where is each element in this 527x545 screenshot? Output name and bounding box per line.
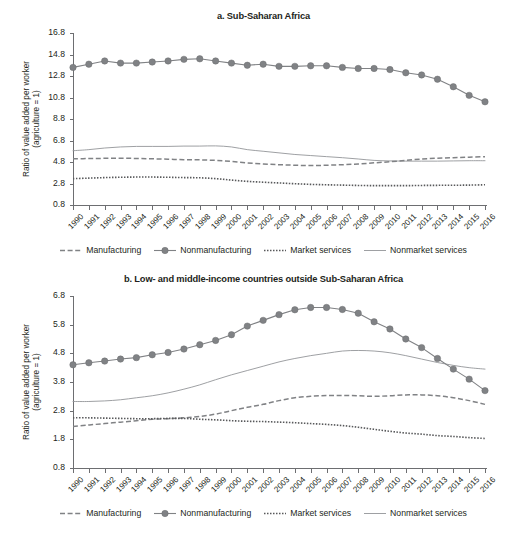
thin-solid-line-icon xyxy=(364,509,386,518)
data-point-marker xyxy=(339,306,345,312)
data-point-marker xyxy=(434,355,440,361)
data-point-marker xyxy=(276,311,282,317)
chart-panel-a: a. Sub-Saharan Africa Ratio of value add… xyxy=(0,0,527,268)
data-point-marker xyxy=(371,319,377,325)
legend-item-nonmarket-services[interactable]: Nonmarket services xyxy=(364,245,467,255)
y-axis-tick-label: 4.8 xyxy=(33,347,65,357)
data-point-marker xyxy=(244,323,250,329)
data-point-marker xyxy=(70,64,76,70)
data-point-marker xyxy=(276,63,282,69)
legend-label: Nonmanufacturing xyxy=(180,245,251,255)
data-point-marker xyxy=(323,304,329,310)
data-point-marker xyxy=(482,387,488,393)
dashed-line-icon xyxy=(60,509,82,518)
data-point-marker xyxy=(197,342,203,348)
legend-label: Manufacturing xyxy=(86,245,141,255)
legend-item-manufacturing[interactable]: Manufacturing xyxy=(60,245,141,255)
legend-item-nonmanufacturing[interactable]: Nonmanufacturing xyxy=(154,508,251,518)
y-axis-tick-label: 5.8 xyxy=(33,319,65,329)
legend-item-nonmarket-services[interactable]: Nonmarket services xyxy=(364,508,467,518)
data-point-marker xyxy=(181,346,187,352)
dashed-line-icon xyxy=(60,246,82,255)
panel-a-title: a. Sub-Saharan Africa xyxy=(0,11,527,21)
panel-b-legend: ManufacturingNonmanufacturingMarket serv… xyxy=(0,508,527,518)
legend-item-manufacturing[interactable]: Manufacturing xyxy=(60,508,141,518)
legend-marker-circle xyxy=(162,510,168,516)
legend-item-market-services[interactable]: Market services xyxy=(264,508,351,518)
series-layer xyxy=(73,33,489,209)
data-point-marker xyxy=(117,60,123,66)
data-point-marker xyxy=(403,336,409,342)
data-point-marker xyxy=(355,65,361,71)
data-point-marker xyxy=(307,63,313,69)
legend-label: Manufacturing xyxy=(86,508,141,518)
y-axis-tick-label: 14.8 xyxy=(33,49,65,59)
data-point-marker xyxy=(228,60,234,66)
data-point-marker xyxy=(181,56,187,62)
data-point-marker xyxy=(86,360,92,366)
data-point-marker xyxy=(434,76,440,82)
data-point-marker xyxy=(70,362,76,368)
legend-label: Market services xyxy=(290,245,351,255)
data-point-marker xyxy=(149,59,155,65)
data-point-marker xyxy=(403,70,409,76)
data-point-marker xyxy=(482,99,488,105)
data-point-marker xyxy=(165,58,171,64)
data-point-marker xyxy=(450,366,456,372)
y-axis-tick-label: 8.8 xyxy=(33,113,65,123)
y-axis-tick-label: 12.8 xyxy=(33,70,65,80)
data-point-marker xyxy=(212,58,218,64)
data-point-marker xyxy=(292,307,298,313)
data-point-marker xyxy=(466,92,472,98)
panel-b-plot-area: 0.81.82.83.84.85.86.81990199119921993199… xyxy=(73,296,485,468)
panel-a-plot-area: 0.82.84.86.88.810.812.814.816.8199019911… xyxy=(73,33,485,205)
y-axis-label-line1: Ratio of value added per worker xyxy=(22,324,31,440)
data-point-marker xyxy=(212,337,218,343)
legend-marker-circle xyxy=(162,247,168,253)
data-point-marker xyxy=(323,63,329,69)
chart-panel-b: b. Low- and middle-income countries outs… xyxy=(0,268,527,545)
legend-item-nonmanufacturing[interactable]: Nonmanufacturing xyxy=(154,245,251,255)
y-axis-tick-label: 4.8 xyxy=(33,156,65,166)
data-point-marker xyxy=(466,376,472,382)
data-point-marker xyxy=(387,66,393,72)
legend-item-market-services[interactable]: Market services xyxy=(264,245,351,255)
data-point-marker xyxy=(387,326,393,332)
data-point-marker xyxy=(450,84,456,90)
line-with-circle-marker-icon xyxy=(154,509,176,518)
y-axis-tick-label: 16.8 xyxy=(33,27,65,37)
data-point-marker xyxy=(101,58,107,64)
y-axis-tick-label: 2.8 xyxy=(33,178,65,188)
data-point-marker xyxy=(339,64,345,70)
data-point-marker xyxy=(86,61,92,67)
data-point-marker xyxy=(197,56,203,62)
data-point-marker xyxy=(260,317,266,323)
y-axis-tick-label: 1.8 xyxy=(33,433,65,443)
panel-a-legend: ManufacturingNonmanufacturingMarket serv… xyxy=(0,245,527,255)
legend-label: Nonmanufacturing xyxy=(180,508,251,518)
data-point-marker xyxy=(149,352,155,358)
y-axis-tick-label: 3.8 xyxy=(33,376,65,386)
data-point-marker xyxy=(133,354,139,360)
data-point-marker xyxy=(355,310,361,316)
dotted-line-icon xyxy=(264,246,286,255)
y-axis-tick-label: 0.8 xyxy=(33,199,65,209)
data-point-marker xyxy=(292,63,298,69)
data-point-marker xyxy=(260,61,266,67)
data-point-marker xyxy=(307,304,313,310)
data-point-marker xyxy=(101,358,107,364)
y-axis-tick-label: 0.8 xyxy=(33,462,65,472)
dotted-line-icon xyxy=(264,509,286,518)
legend-label: Nonmarket services xyxy=(390,245,467,255)
series-line-market-services xyxy=(73,177,485,186)
thin-solid-line-icon xyxy=(364,246,386,255)
data-point-marker xyxy=(165,349,171,355)
y-axis-tick-label: 6.8 xyxy=(33,135,65,145)
y-axis-tick-label: 6.8 xyxy=(33,290,65,300)
y-axis-tick-label: 10.8 xyxy=(33,92,65,102)
data-point-marker xyxy=(418,72,424,78)
data-point-marker xyxy=(418,344,424,350)
y-axis-tick-label: 2.8 xyxy=(33,405,65,415)
panel-b-title: b. Low- and middle-income countries outs… xyxy=(0,274,527,284)
data-point-marker xyxy=(133,60,139,66)
